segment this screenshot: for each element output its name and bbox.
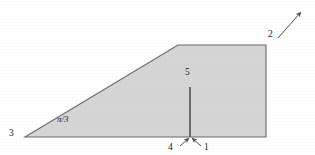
arrow-pointing-to-label-4 (180, 138, 189, 146)
label-edge-5: 5 (185, 68, 190, 78)
arrow-pointing-to-label-2 (278, 12, 301, 38)
arrow-pointing-to-label-1 (192, 138, 201, 146)
label-arrow-2: 2 (268, 30, 273, 40)
figure-canvas (0, 0, 315, 155)
label-arrow-4: 4 (168, 143, 173, 153)
label-arrow-1: 1 (204, 143, 209, 153)
geometry-figure: 3 π/3 5 4 1 2 (0, 0, 315, 155)
label-angle-pi-over-3: π/3 (57, 115, 69, 124)
label-vertex-3: 3 (9, 129, 14, 139)
